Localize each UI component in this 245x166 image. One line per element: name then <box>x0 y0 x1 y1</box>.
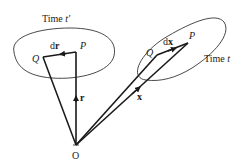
line-O-to-Q-left <box>43 57 76 145</box>
vector-r-label: r <box>80 92 85 103</box>
vector-dr-label: dr <box>50 40 60 51</box>
line-O-to-Q-right <box>76 55 157 145</box>
point-P-left: P <box>79 40 86 51</box>
point-Q-left: Q <box>32 53 40 64</box>
vector-dr-arrow <box>60 54 66 55</box>
vector-x-label: x <box>137 91 142 102</box>
vector-dr-line <box>43 52 76 57</box>
deformation-diagram: Time t′ Time t Q P dr r Q P dx x O <box>0 0 245 166</box>
origin-label: O <box>72 150 79 161</box>
point-P-right: P <box>188 30 195 41</box>
vector-dx-label: dx <box>163 36 173 47</box>
left-time-label: Time t′ <box>42 13 71 24</box>
point-Q-right: Q <box>146 47 154 58</box>
right-time-label: Time t <box>204 53 230 64</box>
